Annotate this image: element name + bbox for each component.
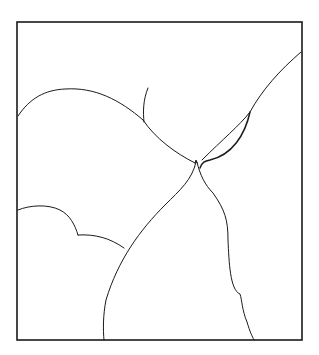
main-right-boundary bbox=[197, 162, 254, 340]
lower-left-bump bbox=[18, 206, 78, 235]
frame-border bbox=[17, 22, 302, 340]
short-hook bbox=[143, 88, 148, 122]
upper-right-long-curve bbox=[202, 52, 301, 160]
diagram-canvas bbox=[0, 0, 319, 355]
boundary-curves bbox=[18, 52, 301, 340]
main-left-boundary bbox=[103, 162, 196, 340]
lower-left-shoulder bbox=[78, 235, 124, 248]
central-left-branch bbox=[143, 120, 195, 163]
upper-left-arc bbox=[18, 89, 143, 120]
